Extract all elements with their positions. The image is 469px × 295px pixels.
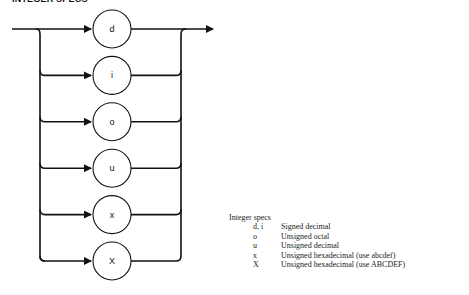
branch-out-line [131,70,181,75]
branch-out-line [131,117,181,122]
legend: Integer specs d, i Signed decimal o Unsi… [229,213,405,269]
branch-in-line [40,256,91,261]
legend-desc: Unsigned hexadecimal (use ABCDEF) [281,260,405,269]
legend-row: u Unsigned decimal [229,241,405,250]
legend-code: d, i [229,222,281,231]
node-label: u [109,163,114,173]
node-i: i [93,56,131,94]
branch-in-line [40,117,91,122]
legend-code: o [229,232,281,241]
branch-out-line [131,210,181,215]
node-d: d [93,10,131,48]
legend-code: u [229,241,281,250]
legend-row: d, i Signed decimal [229,222,405,231]
right-rail [181,29,186,256]
node-x: x [93,196,131,234]
legend-code: X [229,260,281,269]
left-rail [36,29,45,261]
node-label: o [109,117,114,127]
node-label: i [111,70,113,80]
node-label: x [110,210,115,220]
legend-desc: Unsigned hexadecimal (use abcdef) [281,251,395,260]
legend-desc: Unsigned octal [281,232,329,241]
legend-title: Integer specs [229,213,405,222]
branch-in-line [40,70,91,75]
node-u: u [93,149,131,187]
legend-desc: Signed decimal [281,222,331,231]
legend-row: X Unsigned hexadecimal (use ABCDEF) [229,260,405,269]
branch-in-line [40,210,91,215]
branch-in-line [40,163,91,168]
legend-row: x Unsigned hexadecimal (use abcdef) [229,251,405,260]
node-label: X [109,256,115,266]
branch-out-line [131,163,181,168]
branch-out-line [131,256,181,261]
legend-code: x [229,251,281,260]
legend-desc: Unsigned decimal [281,241,339,250]
node-X: X [93,242,131,280]
integer-specs-figure: INTEGER SPECS diouxX Integer specs d, i … [0,0,469,295]
node-o: o [93,103,131,141]
legend-row: o Unsigned octal [229,232,405,241]
node-label: d [109,24,114,34]
